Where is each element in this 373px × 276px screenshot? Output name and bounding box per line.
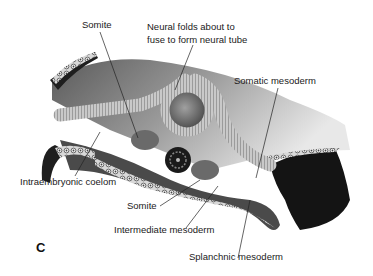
right-cut-face — [270, 148, 350, 230]
label-intraembryonic-coelom: Intraembryonic coelom — [20, 176, 116, 188]
intraembryonic-coelom-right — [225, 182, 268, 200]
label-intermediate-mesoderm: Intermediate mesoderm — [114, 224, 214, 236]
label-splanchnic-mesoderm: Splanchnic mesoderm — [189, 251, 283, 263]
label-somite-top: Somite — [82, 19, 112, 31]
label-somite-bottom: Somite — [127, 200, 157, 212]
label-neural-folds-line1: Neural folds about to — [147, 21, 235, 33]
neural-groove — [165, 88, 209, 132]
somite-left-shape — [131, 130, 159, 150]
label-neural-folds-line2: fuse to form neural tube — [147, 34, 247, 46]
panel-letter: C — [36, 240, 45, 255]
somite-right-shape — [191, 160, 219, 180]
label-somatic-mesoderm: Somatic mesoderm — [234, 75, 316, 87]
